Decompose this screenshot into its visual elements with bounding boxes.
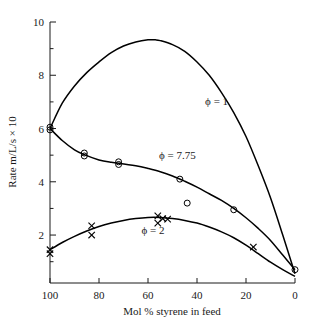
data-point-circle — [184, 200, 190, 206]
x-tick-label: 20 — [241, 289, 253, 301]
data-markers-group — [47, 124, 298, 272]
y-tick-label: 6 — [39, 123, 45, 135]
y-tick-label: 8 — [39, 69, 45, 81]
curve-annotations-group: ϕ = 1ϕ = 7.75ϕ = 2 — [141, 95, 228, 236]
curve-label-1: ϕ = 1 — [205, 95, 228, 107]
data-point-cross — [164, 216, 170, 222]
curve-label-3: ϕ = 2 — [141, 224, 164, 236]
y-axis-minor-ticks — [50, 49, 54, 262]
chart-plot-area: 246810 100806040200 ϕ = 1ϕ = 7.75ϕ = 2 M… — [0, 0, 314, 332]
data-point-cross — [250, 244, 256, 250]
y-axis-title: Rate m/L/s × 10 — [6, 116, 18, 188]
data-curve-3 — [50, 217, 295, 276]
data-point-cross — [88, 232, 94, 238]
x-tick-label: 80 — [94, 289, 106, 301]
y-axis-tick-labels: 246810 — [33, 16, 45, 241]
y-tick-label: 2 — [39, 229, 45, 241]
y-tick-label: 4 — [39, 176, 45, 188]
x-tick-label: 60 — [143, 289, 155, 301]
data-point-cross — [88, 223, 94, 229]
curve-label-2: ϕ = 7.75 — [159, 149, 196, 161]
y-tick-label: 10 — [33, 16, 45, 28]
chart-figure: 246810 100806040200 ϕ = 1ϕ = 7.75ϕ = 2 M… — [0, 0, 314, 332]
x-axis-ticks — [50, 278, 295, 283]
x-tick-label: 0 — [292, 289, 298, 301]
x-tick-label: 40 — [192, 289, 204, 301]
x-tick-label: 100 — [42, 289, 59, 301]
x-axis-title: Mol % styrene in feed — [123, 305, 221, 317]
x-axis-tick-labels: 100806040200 — [42, 289, 299, 301]
